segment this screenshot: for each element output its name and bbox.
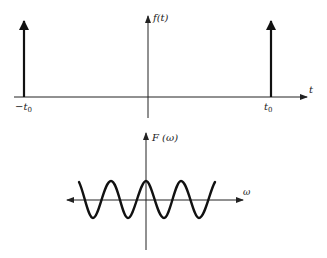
fourier-pair-diagram: f(t) t −t0 t0 F (ω) ω (0, 0, 327, 258)
F-omega-label: F (ω) (151, 132, 178, 143)
impulse-right-label: t0 (264, 101, 273, 114)
impulse-left-label: −t0 (15, 101, 32, 114)
f-t-label: f(t) (152, 12, 169, 23)
omega-axis-label: ω (243, 187, 251, 197)
bottom-plot: F (ω) ω (67, 132, 251, 250)
t-axis-label: t (309, 84, 314, 95)
top-plot: f(t) t −t0 t0 (14, 12, 314, 118)
